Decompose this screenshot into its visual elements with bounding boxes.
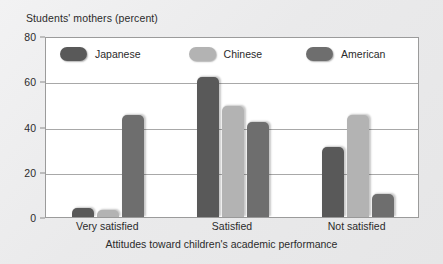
y-tick-label: 40: [24, 122, 36, 134]
legend-swatch-american: [306, 47, 333, 61]
legend-item-japanese[interactable]: Japanese: [60, 47, 141, 61]
bars-layer: [46, 38, 418, 217]
bar-american-very-satisfied: [122, 115, 144, 217]
bar-chinese-not-satisfied: [347, 115, 369, 217]
y-tick-label: 20: [24, 167, 36, 179]
x-axis-title: Attitudes toward children's academic per…: [0, 238, 443, 250]
x-tick-label-very-satisfied: Very satisfied: [76, 220, 138, 232]
legend-label-chinese: Chinese: [224, 48, 263, 60]
y-tick-label: 60: [24, 76, 36, 88]
bar-american-not-satisfied: [372, 194, 394, 217]
y-axis-tick-labels: 020406080: [0, 37, 42, 218]
x-axis-tick-labels: Very satisfiedSatisfiedNot satisfied: [45, 220, 419, 236]
legend-item-american[interactable]: American: [306, 47, 385, 61]
legend-label-american: American: [341, 48, 385, 60]
bar-american-satisfied: [247, 122, 269, 217]
plot-area: JapaneseChineseAmerican: [45, 37, 419, 218]
chart-figure: Students' mothers (percent) 020406080 Ja…: [0, 0, 443, 264]
x-tick-label-not-satisfied: Not satisfied: [328, 220, 386, 232]
bar-japanese-very-satisfied: [72, 208, 94, 217]
legend-swatch-chinese: [189, 47, 216, 61]
chart-legend: JapaneseChineseAmerican: [60, 47, 385, 61]
bar-chinese-very-satisfied: [97, 210, 119, 217]
x-tick-label-satisfied: Satisfied: [212, 220, 252, 232]
bar-chinese-satisfied: [222, 106, 244, 217]
y-axis-title: Students' mothers (percent): [26, 12, 158, 24]
y-tick-label: 0: [30, 212, 36, 224]
bar-japanese-satisfied: [197, 77, 219, 217]
bar-japanese-not-satisfied: [322, 147, 344, 217]
legend-swatch-japanese: [60, 47, 87, 61]
legend-item-chinese[interactable]: Chinese: [189, 47, 263, 61]
legend-label-japanese: Japanese: [95, 48, 141, 60]
y-tick-label: 80: [24, 31, 36, 43]
